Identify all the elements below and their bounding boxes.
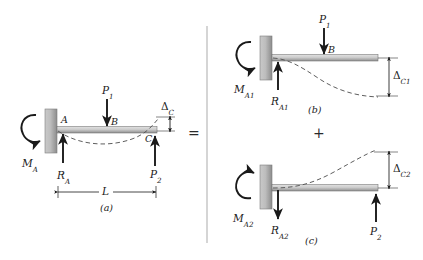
deflection-curve-c bbox=[273, 150, 376, 188]
panel-c-graphics bbox=[236, 150, 398, 222]
label-deflection-b: ΔC1 bbox=[393, 70, 411, 83]
label-moment-a: MA bbox=[22, 158, 38, 171]
label-load-p1-a: P1 bbox=[102, 85, 114, 98]
moment-arc-c bbox=[236, 172, 254, 198]
panel-b-graphics bbox=[237, 28, 398, 97]
equals-sign: = bbox=[188, 126, 200, 140]
wall-support-a bbox=[45, 109, 57, 153]
label-point-a: A bbox=[61, 115, 68, 125]
moment-arc-b bbox=[237, 42, 255, 69]
deflection-curve-b bbox=[273, 58, 378, 97]
panel-a-graphics bbox=[22, 99, 175, 198]
label-moment-b: MA1 bbox=[234, 84, 254, 97]
label-moment-c: MA2 bbox=[233, 213, 253, 226]
figure-canvas: MA RA A B C P1 P2 ΔC L (a) = + MA1 RA1 P… bbox=[0, 0, 423, 260]
label-deflection-c: ΔC2 bbox=[393, 163, 411, 176]
label-reaction-c: RA2 bbox=[271, 225, 289, 238]
label-reaction-a: RA bbox=[57, 170, 70, 183]
label-load-p2-a: P2 bbox=[150, 169, 162, 182]
caption-c: (c) bbox=[305, 236, 318, 246]
label-load-p1-b: P1 bbox=[319, 14, 331, 27]
moment-arc-a bbox=[22, 115, 40, 142]
label-point-c-a: C bbox=[145, 134, 152, 144]
label-point-b-a: B bbox=[111, 117, 118, 127]
plus-sign: + bbox=[313, 126, 325, 140]
wall-support-c bbox=[260, 165, 272, 209]
label-deflection-a: ΔC bbox=[161, 101, 174, 114]
label-load-p2-c: P2 bbox=[370, 226, 382, 239]
beam-b bbox=[272, 55, 378, 62]
diagram-graphics bbox=[0, 0, 423, 260]
label-length-a: L bbox=[102, 186, 109, 197]
beam-c bbox=[272, 185, 378, 192]
wall-support-b bbox=[260, 36, 272, 80]
caption-a: (a) bbox=[100, 203, 113, 213]
caption-b: (b) bbox=[308, 105, 322, 115]
label-point-b-b: B bbox=[328, 45, 335, 55]
label-reaction-b: RA1 bbox=[271, 96, 289, 109]
beam-a bbox=[57, 127, 157, 134]
